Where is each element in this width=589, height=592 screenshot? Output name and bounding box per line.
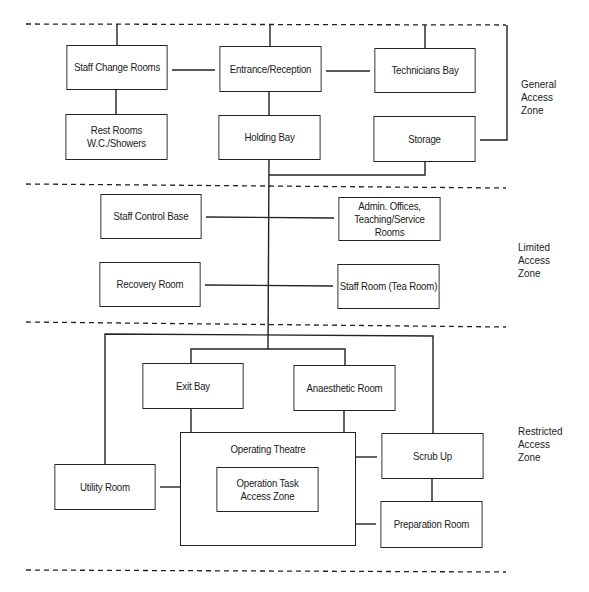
room-label: Rest Rooms W.C./Showers	[87, 124, 146, 150]
zone-label-general: General Access Zone	[521, 78, 556, 117]
zone-label-restricted: Restricted Access Zone	[518, 425, 563, 464]
room-label: Admin. Offices, Teaching/Service Rooms	[339, 200, 439, 239]
room-label: Preparation Room	[394, 518, 469, 531]
staff-control-base-box: Staff Control Base	[100, 194, 201, 239]
operating-theatre-label: Operating Theatre	[188, 443, 348, 456]
room-label: Scrub Up	[413, 450, 452, 463]
admin-offices-box: Admin. Offices, Teaching/Service Rooms	[338, 197, 440, 241]
access-zone-diagram: Staff Change Rooms Entrance/Reception Te…	[0, 0, 589, 592]
room-label: Staff Room (Tea Room)	[340, 280, 437, 293]
entrance-reception-box: Entrance/Reception	[219, 46, 321, 92]
room-label: Utility Room	[80, 481, 130, 494]
recovery-room-box: Recovery Room	[99, 262, 200, 307]
preparation-room-box: Preparation Room	[380, 501, 482, 548]
room-label: Staff Control Base	[114, 210, 189, 223]
operation-task-zone-box: Operation Task Access Zone	[216, 467, 318, 512]
anaesthetic-room-box: Anaesthetic Room	[293, 365, 395, 411]
exit-bay-box: Exit Bay	[142, 363, 243, 409]
staff-room-box: Staff Room (Tea Room)	[337, 264, 439, 309]
room-label: Anaesthetic Room	[306, 382, 382, 395]
rest-rooms-box: Rest Rooms W.C./Showers	[65, 114, 167, 160]
room-label: Operation Task Access Zone	[236, 477, 298, 503]
holding-bay-box: Holding Bay	[218, 115, 320, 160]
room-label: Storage	[408, 133, 441, 146]
room-label: Staff Change Rooms	[74, 61, 160, 74]
utility-room-box: Utility Room	[54, 464, 155, 510]
room-label: Technicians Bay	[391, 64, 458, 77]
storage-box: Storage	[373, 116, 475, 162]
zone-label-limited: Limited Access Zone	[518, 241, 550, 280]
room-label: Entrance/Reception	[230, 63, 312, 76]
room-label: Recovery Room	[117, 278, 184, 291]
room-label: Exit Bay	[176, 380, 210, 393]
staff-change-rooms-box: Staff Change Rooms	[66, 45, 167, 90]
room-label: Holding Bay	[244, 131, 294, 144]
scrub-up-box: Scrub Up	[381, 433, 483, 479]
technicians-bay-box: Technicians Bay	[374, 48, 475, 93]
